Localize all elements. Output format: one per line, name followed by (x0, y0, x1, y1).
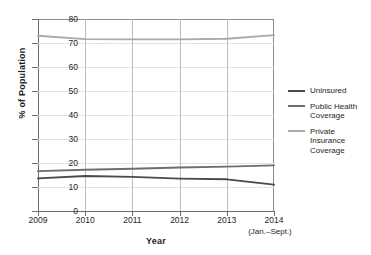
x-tick-label: 2012 (157, 215, 203, 225)
legend-swatch-icon (288, 105, 305, 107)
x-tick-label: 2013 (204, 215, 250, 225)
data-series-layer (38, 19, 274, 211)
legend-swatch-icon (288, 130, 305, 132)
x-tick-label: 2009 (15, 215, 61, 225)
legend-swatch-icon (288, 90, 305, 92)
health-coverage-line-chart: 01020304050607080 2009201020112012201320… (0, 0, 371, 255)
legend-item: Uninsured (288, 86, 370, 96)
legend-item: Private Insurance Coverage (288, 127, 370, 156)
legend-item: Public Health Coverage (288, 102, 370, 121)
x-tick-label: 2010 (62, 215, 108, 225)
series-line (38, 176, 274, 185)
series-line (38, 165, 274, 171)
legend-label: Public Health Coverage (310, 102, 357, 121)
y-axis-title: % of Population (17, 28, 27, 138)
x-axis-title: Year (38, 236, 274, 246)
legend-label: Private Insurance Coverage (310, 127, 370, 156)
x-tick-label: 2014 (251, 215, 297, 225)
series-line (38, 35, 274, 39)
legend-label: Uninsured (310, 86, 346, 96)
x-tick-label: 2011 (109, 215, 155, 225)
chart-legend: UninsuredPublic Health CoveragePrivate I… (288, 86, 370, 161)
